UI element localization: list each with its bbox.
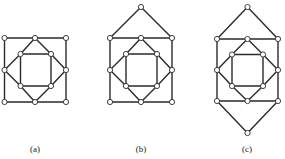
graph-figure	[0, 0, 285, 159]
graph-edge	[5, 70, 21, 86]
graph-panel-c	[214, 4, 280, 135]
graph-node	[138, 35, 143, 40]
graph-edge	[217, 70, 232, 86]
graph-node	[48, 83, 53, 88]
graph-node	[2, 35, 7, 40]
graph-node	[63, 67, 68, 72]
graph-node	[260, 52, 265, 57]
graph-edge	[232, 39, 248, 55]
panel-label-b: (b)	[136, 145, 147, 154]
graph-node	[107, 99, 112, 104]
graph-edge	[35, 38, 51, 54]
graph-node	[229, 52, 234, 57]
graph-node	[2, 99, 7, 104]
graph-node	[138, 4, 143, 9]
graph-edge	[110, 7, 141, 38]
graph-edge	[126, 86, 141, 102]
graph-edge	[263, 70, 278, 86]
graph-node	[48, 51, 53, 56]
graph-panel-a	[2, 35, 69, 104]
graph-edge	[141, 86, 157, 102]
graph-edge	[157, 70, 172, 86]
graph-edge	[217, 101, 248, 133]
graph-node	[32, 99, 37, 104]
graph-edge	[248, 101, 279, 133]
graph-edge	[51, 70, 66, 86]
graph-node	[260, 83, 265, 88]
graph-panel-b	[107, 4, 174, 104]
graph-node	[169, 35, 174, 40]
graph-node	[63, 35, 68, 40]
graph-node	[32, 35, 37, 40]
graph-node	[245, 36, 250, 41]
graph-edge	[5, 54, 21, 70]
graph-edge	[263, 55, 278, 71]
graph-edge	[217, 55, 232, 71]
graph-node	[245, 4, 250, 9]
graph-edge	[217, 7, 248, 39]
graph-node	[275, 67, 280, 72]
graph-node	[245, 130, 250, 135]
graph-node	[2, 67, 7, 72]
graph-edge	[248, 7, 279, 39]
graph-node	[275, 98, 280, 103]
graph-node	[214, 36, 219, 41]
graph-node	[18, 51, 23, 56]
graph-node	[229, 83, 234, 88]
graph-node	[275, 36, 280, 41]
panel-label-a: (a)	[30, 145, 40, 154]
graph-node	[18, 83, 23, 88]
graph-node	[154, 83, 159, 88]
panel-label-c: (c)	[242, 145, 252, 154]
graph-edge	[157, 54, 172, 70]
graph-edge	[35, 86, 51, 102]
graph-edge	[21, 86, 36, 102]
graph-node	[107, 35, 112, 40]
graph-node	[245, 98, 250, 103]
graph-node	[107, 67, 112, 72]
graph-edge	[110, 54, 126, 70]
graph-node	[169, 67, 174, 72]
graph-edge	[110, 70, 126, 86]
graph-edge	[126, 38, 141, 54]
graph-node	[169, 99, 174, 104]
graph-node	[214, 67, 219, 72]
graph-edge	[141, 38, 157, 54]
graph-node	[123, 51, 128, 56]
graph-node	[154, 51, 159, 56]
graph-edge	[248, 39, 264, 55]
graph-edge	[51, 54, 66, 70]
graph-node	[138, 99, 143, 104]
graph-node	[63, 99, 68, 104]
graph-node	[214, 98, 219, 103]
graph-edge	[248, 86, 264, 101]
graph-node	[123, 83, 128, 88]
graph-edge	[141, 7, 172, 38]
graph-edge	[21, 38, 36, 54]
graph-edge	[232, 86, 248, 101]
